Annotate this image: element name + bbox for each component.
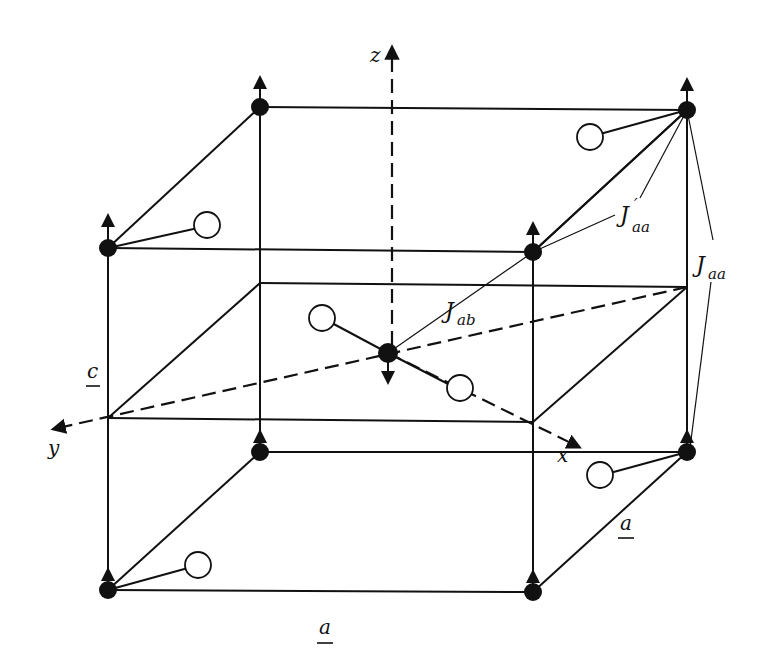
exchange-lines (388, 110, 713, 448)
z-axis-label: z (369, 43, 381, 67)
ligand-5 (185, 552, 211, 578)
svg-text:′: ′ (634, 195, 638, 214)
a-bottom-lattice-label: a (319, 615, 331, 639)
ligand-2 (577, 124, 603, 150)
y-axis (58, 287, 687, 428)
a-side-lattice-label: a (620, 511, 632, 535)
atom-bottom-front-left (99, 581, 117, 599)
diagram-stage: z y x c a a J ab J ′ aa J aa (0, 0, 767, 657)
atom-bottom-back-right (678, 443, 696, 461)
svg-text:aa: aa (708, 265, 726, 283)
atom-top-back-left (251, 98, 269, 116)
svg-text:ab: ab (457, 311, 476, 329)
atom-bottom-back-left (251, 443, 269, 461)
svg-text:aa: aa (632, 218, 650, 236)
svg-text:J: J (692, 252, 706, 277)
y-axis-label: y (47, 436, 60, 460)
atom-top-back-right (678, 101, 696, 119)
atom-center (378, 343, 398, 363)
J-ab-label: J ab (441, 298, 476, 329)
crystal-cell-diagram: z y x c a a J ab J ′ aa J aa (0, 0, 767, 657)
ligand-4 (447, 375, 473, 401)
cell-vertical-edges (108, 107, 687, 592)
x-axis-label: x (557, 443, 568, 467)
ligand-1 (194, 212, 220, 238)
atom-top-front-left (99, 239, 117, 257)
J-aa-label: J aa (692, 252, 726, 283)
ligand-6 (587, 462, 613, 488)
c-lattice-label: c (87, 359, 98, 383)
svg-text:J: J (616, 202, 630, 227)
spin-arrows (108, 82, 687, 585)
atom-top-front-right (524, 243, 542, 261)
svg-text:J: J (441, 298, 455, 323)
atom-bottom-front-right (524, 583, 542, 601)
ligand-3 (309, 305, 335, 331)
J-aa-prime-label: J ′ aa (616, 195, 650, 236)
